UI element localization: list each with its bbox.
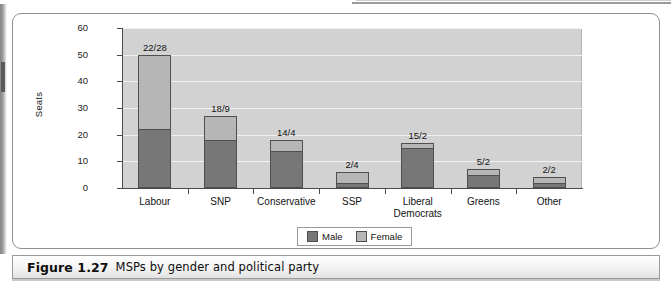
bar-segment-male[interactable] (533, 183, 566, 188)
bar-value-label: 2/2 (509, 164, 589, 175)
x-axis-category-label-line: Other (504, 196, 594, 208)
bar-stack[interactable] (204, 116, 237, 188)
x-tick-mark (188, 189, 189, 194)
gridline (122, 135, 582, 136)
y-tick-label: 0 (48, 182, 88, 193)
y-tick-mark (117, 28, 122, 29)
chart-legend: MaleFemale (297, 227, 412, 246)
figure-caption-bar: Figure 1.27 MSPs by gender and political… (12, 255, 660, 279)
bar-stack[interactable] (336, 172, 369, 188)
gridline (122, 28, 582, 29)
y-axis-title: Seats (33, 65, 44, 145)
x-tick-mark (385, 189, 386, 194)
y-tick-label: 50 (48, 49, 88, 60)
x-tick-mark (451, 189, 452, 194)
legend-label: Male (322, 231, 343, 242)
bar-stack[interactable] (467, 169, 500, 188)
bar-segment-male[interactable] (336, 183, 369, 188)
legend-item[interactable]: Male (307, 231, 343, 242)
y-tick-mark (117, 135, 122, 136)
legend-swatch-male (307, 231, 318, 242)
bar-value-label: 15/2 (378, 130, 458, 141)
bar-segment-female[interactable] (138, 55, 171, 131)
y-tick-mark (117, 188, 122, 189)
gridline (122, 55, 582, 56)
page-top-rule-secondary (356, 0, 671, 1)
y-tick-mark (117, 161, 122, 162)
figure-number: Figure 1.27 (27, 260, 109, 275)
scan-edge-artifact-left (0, 4, 7, 254)
figure-caption-text: MSPs by gender and political party (116, 260, 320, 274)
page-top-rule (352, 2, 671, 4)
legend-label: Female (371, 231, 403, 242)
y-tick-label: 40 (48, 75, 88, 86)
caption-bar-shadow (12, 279, 660, 281)
bar-value-label: 2/4 (312, 159, 392, 170)
y-tick-mark (117, 108, 122, 109)
bar-segment-male[interactable] (204, 140, 237, 188)
bar-segment-male[interactable] (401, 148, 434, 188)
bar-value-label: 14/4 (246, 127, 326, 138)
bar-chart: Seats 0102030405060 22/2818/914/42/415/2… (12, 13, 660, 249)
x-tick-mark (319, 189, 320, 194)
y-tick-mark (117, 81, 122, 82)
legend-item[interactable]: Female (356, 231, 403, 242)
x-tick-mark (516, 189, 517, 194)
y-tick-label: 30 (48, 102, 88, 113)
bar-value-label: 22/28 (115, 42, 195, 53)
bar-segment-male[interactable] (467, 175, 500, 188)
y-tick-label: 60 (48, 22, 88, 33)
bar-segment-male[interactable] (138, 129, 171, 188)
gridline (122, 81, 582, 82)
x-axis-line (122, 188, 583, 189)
legend-swatch-female (356, 231, 367, 242)
bar-segment-female[interactable] (204, 116, 237, 141)
bar-stack[interactable] (401, 143, 434, 188)
x-axis-category-label-line: Democrats (373, 208, 463, 220)
bar-stack[interactable] (138, 55, 171, 188)
x-axis-category-label: Other (504, 196, 594, 208)
bar-value-label: 18/9 (181, 103, 261, 114)
y-tick-mark (117, 55, 122, 56)
x-tick-mark (253, 189, 254, 194)
y-tick-label: 10 (48, 155, 88, 166)
bar-stack[interactable] (533, 177, 566, 188)
bar-stack[interactable] (270, 140, 303, 188)
y-tick-label: 20 (48, 129, 88, 140)
bar-segment-male[interactable] (270, 151, 303, 188)
